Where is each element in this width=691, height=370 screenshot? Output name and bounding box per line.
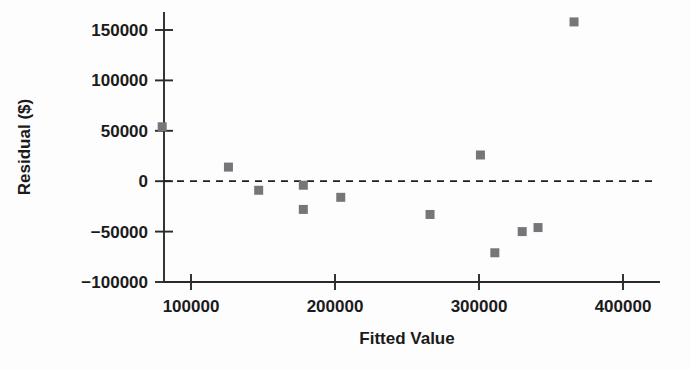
y-tick-label: 0 [139, 172, 148, 191]
residual-scatter-chart: −100000−50000050000100000150000100000200… [0, 0, 691, 370]
x-axis-title: Fitted Value [359, 329, 454, 348]
plot-area: −100000−50000050000100000150000100000200… [0, 0, 691, 370]
y-tick-label: 50000 [101, 122, 148, 141]
data-point [490, 248, 499, 257]
data-point [570, 17, 579, 26]
data-point [299, 205, 308, 214]
data-point [476, 150, 485, 159]
x-tick-label: 400000 [595, 297, 652, 316]
data-point [534, 223, 543, 232]
data-point [299, 181, 308, 190]
data-point [158, 122, 167, 131]
x-tick-label: 300000 [451, 297, 508, 316]
y-tick-label: −50000 [91, 223, 148, 242]
data-point [224, 163, 233, 172]
data-point [426, 210, 435, 219]
y-axis-title: Residual ($) [15, 99, 34, 195]
y-tick-label: 100000 [91, 71, 148, 90]
data-point [254, 186, 263, 195]
y-tick-label: 150000 [91, 21, 148, 40]
y-tick-label: −100000 [81, 273, 148, 292]
data-point [518, 227, 527, 236]
data-point [336, 193, 345, 202]
x-tick-label: 200000 [307, 297, 364, 316]
x-tick-label: 100000 [163, 297, 220, 316]
